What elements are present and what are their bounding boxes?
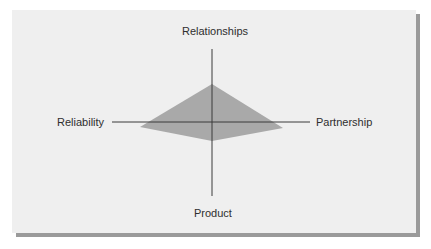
axis-label-partnership: Partnership xyxy=(316,116,372,129)
axis-label-product: Product xyxy=(194,207,232,220)
axis-label-relationships: Relationships xyxy=(182,25,248,38)
axis-label-reliability: Reliability xyxy=(57,116,104,129)
